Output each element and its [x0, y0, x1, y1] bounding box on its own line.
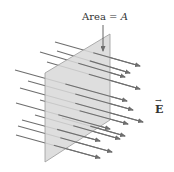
vector-arrow-icon: → [155, 96, 162, 105]
area-label-prefix: Area = [82, 11, 121, 22]
area-symbol: A [121, 11, 128, 22]
field-arrow [90, 126, 125, 136]
electric-field-label: → E [155, 103, 163, 116]
electric-flux-diagram: Area = A → E [0, 0, 174, 172]
diagram-canvas [0, 0, 174, 172]
area-label: Area = A [82, 11, 128, 22]
